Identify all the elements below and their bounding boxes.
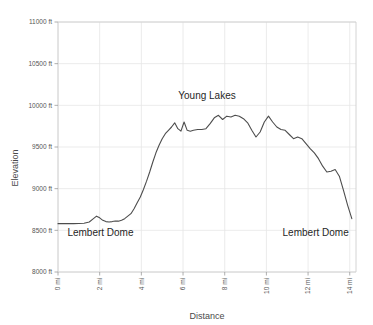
x-tick-label: 10 mi <box>263 278 270 294</box>
x-axis-title: Distance <box>189 311 224 321</box>
y-axis-title: Elevation <box>10 149 20 186</box>
y-tick-label: 8000 ft <box>32 268 52 275</box>
y-tick-label: 9500 ft <box>32 143 52 150</box>
chart-canvas: 0 mi2 mi4 mi6 mi8 mi10 mi12 mi14 mi 8000… <box>0 0 373 325</box>
x-tick-label: 14 mi <box>346 278 353 294</box>
x-tick-label: 8 mi <box>221 278 228 290</box>
x-tick-label: 4 mi <box>138 278 145 290</box>
x-tick-label: 6 mi <box>179 278 186 290</box>
elevation-profile-chart: 0 mi2 mi4 mi6 mi8 mi10 mi12 mi14 mi 8000… <box>0 0 373 325</box>
annotation-label-0: Young Lakes <box>178 90 235 101</box>
y-tick-label: 9000 ft <box>32 185 52 192</box>
x-tick-label: 0 mi <box>54 278 61 290</box>
annotation-label-1: Lembert Dome <box>67 227 134 238</box>
y-tick-label: 11000 ft <box>29 18 52 25</box>
y-tick-label: 10000 ft <box>29 102 53 109</box>
y-tick-label: 10500 ft <box>29 60 53 67</box>
y-tick-label: 8500 ft <box>32 227 52 234</box>
x-tick-label: 12 mi <box>304 278 311 294</box>
annotation-label-2: Lembert Dome <box>283 227 350 238</box>
chart-background <box>0 0 373 325</box>
x-tick-label: 2 mi <box>96 278 103 290</box>
